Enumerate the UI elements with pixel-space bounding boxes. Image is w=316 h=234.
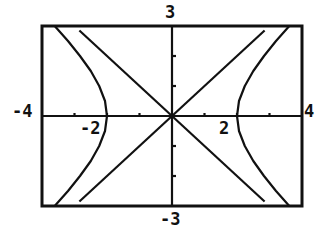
tick-label-pos2: 2 (219, 120, 229, 137)
xmax-label: 4 (304, 103, 314, 120)
tick-label-neg2: -2 (80, 120, 100, 137)
ymax-label: 3 (165, 4, 175, 21)
ymin-label: -3 (160, 211, 180, 228)
graph-plot (0, 0, 316, 234)
xmin-label: -4 (12, 103, 32, 120)
